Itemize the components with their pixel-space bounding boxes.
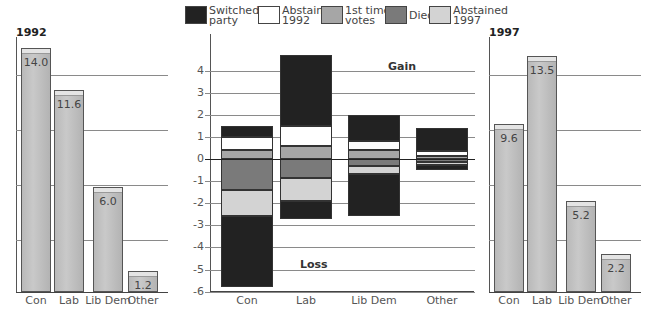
y-tick-label: 0 bbox=[190, 152, 204, 165]
stack-segment bbox=[221, 159, 273, 190]
x-label: Other bbox=[120, 294, 166, 307]
legend-swatch bbox=[429, 6, 451, 24]
y-tick-label: -3 bbox=[190, 218, 204, 231]
gridline bbox=[205, 115, 475, 116]
bar-value-label: 1.2 bbox=[129, 279, 157, 292]
gridline bbox=[205, 71, 475, 72]
y-tick-label: 1 bbox=[190, 130, 204, 143]
x-axis-1997 bbox=[489, 292, 641, 293]
bar-value-label: 9.6 bbox=[495, 132, 523, 145]
bar-con: 9.6 bbox=[494, 124, 524, 292]
gridline bbox=[205, 93, 475, 94]
chart-title-1997: 1997 bbox=[489, 26, 520, 39]
stack-segment bbox=[348, 141, 400, 150]
stack-segment bbox=[416, 128, 468, 151]
stack-segment bbox=[280, 178, 332, 201]
stack-segment bbox=[348, 115, 400, 142]
y-axis-change bbox=[210, 34, 211, 292]
y-tick-label: -5 bbox=[190, 263, 204, 276]
gridline bbox=[489, 75, 641, 76]
bar-value-label: 11.6 bbox=[55, 98, 83, 111]
stack-segment bbox=[280, 201, 332, 219]
y-tick-label: 2 bbox=[190, 108, 204, 121]
legend-item-abstained-1997: Abstained1997 bbox=[429, 6, 508, 26]
bar-cap bbox=[528, 57, 556, 62]
legend-label-line2: votes bbox=[345, 16, 390, 26]
legend-item-switched-party: Switchedparty bbox=[185, 6, 259, 26]
x-label: Other bbox=[593, 294, 639, 307]
x-axis-1992 bbox=[16, 292, 168, 293]
bar-cap bbox=[55, 91, 83, 96]
legend-swatch bbox=[385, 6, 407, 24]
bar-lib-dem: 5.2 bbox=[566, 201, 596, 292]
bar-value-label: 14.0 bbox=[22, 56, 50, 69]
y-tick-label: -6 bbox=[190, 285, 204, 298]
stack-segment bbox=[221, 126, 273, 137]
bar-other: 1.2 bbox=[128, 271, 158, 292]
stack-segment bbox=[348, 150, 400, 159]
x-label: Con bbox=[215, 294, 279, 307]
bar-cap bbox=[22, 49, 50, 54]
y-tick-label: 4 bbox=[190, 64, 204, 77]
legend-label-line2: party bbox=[209, 16, 259, 26]
gridline bbox=[205, 292, 475, 293]
legend-label: 1st timevotes bbox=[345, 6, 390, 26]
x-label: Other bbox=[410, 294, 474, 307]
bar-value-label: 2.2 bbox=[602, 262, 630, 275]
x-label: Lib Dem bbox=[342, 294, 406, 307]
y-tick-label: -2 bbox=[190, 196, 204, 209]
bar-cap bbox=[495, 125, 523, 130]
stack-segment bbox=[221, 137, 273, 150]
bar-value-label: 5.2 bbox=[567, 209, 595, 222]
legend-label-line2: 1997 bbox=[453, 16, 508, 26]
chart-title-1992: 1992 bbox=[16, 26, 47, 39]
bar-lab: 13.5 bbox=[527, 56, 557, 292]
stack-segment bbox=[348, 166, 400, 175]
bar-cap bbox=[567, 202, 595, 207]
stack-segment bbox=[280, 159, 332, 178]
x-label: Lab bbox=[274, 294, 338, 307]
stack-segment bbox=[280, 146, 332, 159]
bar-value-label: 13.5 bbox=[528, 64, 556, 77]
bar-lab: 11.6 bbox=[54, 90, 84, 292]
legend-item-died: Died bbox=[385, 6, 434, 24]
stack-segment bbox=[416, 165, 468, 171]
bar-con: 14.0 bbox=[21, 48, 51, 292]
bar-other: 2.2 bbox=[601, 254, 631, 292]
bar-cap bbox=[602, 255, 630, 260]
y-tick-label: -1 bbox=[190, 174, 204, 187]
y-tick-label: 3 bbox=[190, 86, 204, 99]
bar-value-label: 6.0 bbox=[94, 195, 122, 208]
stack-segment bbox=[280, 126, 332, 146]
bar-lib-dem: 6.0 bbox=[93, 187, 123, 292]
legend-swatch bbox=[185, 6, 207, 24]
legend-swatch bbox=[321, 6, 343, 24]
legend-swatch bbox=[258, 6, 280, 24]
stack-segment bbox=[221, 190, 273, 217]
y-tick-label: -4 bbox=[190, 240, 204, 253]
legend-label: Abstained1997 bbox=[453, 6, 508, 26]
stack-segment bbox=[221, 216, 273, 287]
bar-cap bbox=[94, 188, 122, 193]
bar-cap bbox=[129, 272, 157, 277]
zero-line bbox=[205, 159, 475, 160]
stack-segment bbox=[280, 55, 332, 126]
stack-segment bbox=[348, 174, 400, 216]
stack-segment bbox=[221, 150, 273, 159]
legend-item-1st-time-votes: 1st timevotes bbox=[321, 6, 390, 26]
legend-label: Switchedparty bbox=[209, 6, 259, 26]
